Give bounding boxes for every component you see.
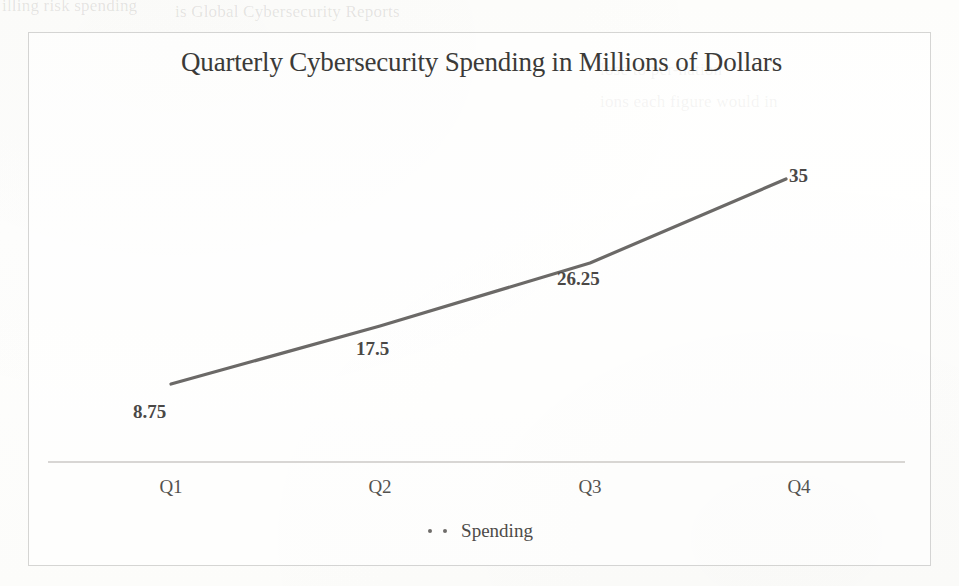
data-label-q3: 26.25 [557, 268, 600, 290]
data-label-q1: 8.75 [133, 401, 166, 423]
x-tick-label-q2: Q2 [340, 476, 420, 498]
series-line-spending [171, 179, 786, 384]
bleed-through-text-1: illing risk spending [2, 0, 137, 16]
plot-area: 8.75 17.5 26.25 35 Q1 Q2 Q3 Q4 Spending [29, 33, 932, 567]
data-label-q4: 35 [789, 165, 808, 187]
x-tick-label-q1: Q1 [131, 476, 211, 498]
legend-dotted-line-icon [428, 529, 454, 533]
bleed-through-text-2: is Global Cybersecurity Reports [175, 2, 400, 22]
data-label-q2: 17.5 [356, 338, 389, 360]
x-tick-label-q4: Q4 [759, 476, 839, 498]
chart-container: Quarterly Cybersecurity Spending in Mill… [28, 32, 931, 566]
legend-item-spending: Spending [461, 520, 533, 542]
x-tick-label-q3: Q3 [550, 476, 630, 498]
chart-legend: Spending [29, 520, 932, 542]
